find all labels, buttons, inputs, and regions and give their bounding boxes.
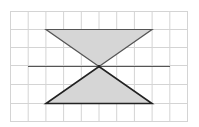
- intersection-point: [98, 65, 101, 68]
- grid-diagram: [0, 0, 199, 127]
